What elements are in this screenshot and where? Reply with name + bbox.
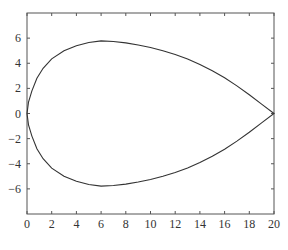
- x-tick-label: 16: [219, 217, 231, 231]
- y-tick-label: −6: [8, 182, 21, 196]
- y-tick-label: 2: [15, 81, 21, 95]
- y-tick-label: 4: [15, 56, 21, 70]
- axis-ticks: [27, 13, 274, 214]
- x-tick-label: 18: [243, 217, 255, 231]
- chart: 024681012141618206420−2−4−6: [0, 0, 288, 250]
- x-tick-label: 14: [194, 217, 206, 231]
- y-tick-label: 6: [15, 31, 21, 45]
- x-tick-label: 10: [145, 217, 157, 231]
- x-tick-label: 6: [98, 217, 104, 231]
- plot-frame: [27, 13, 274, 214]
- x-tick-label: 8: [123, 217, 129, 231]
- data-curve: [27, 41, 274, 186]
- y-tick-label: −2: [8, 132, 21, 146]
- x-tick-label: 2: [49, 217, 55, 231]
- x-tick-label: 12: [169, 217, 181, 231]
- x-tick-label: 0: [24, 217, 30, 231]
- x-tick-label: 4: [73, 217, 79, 231]
- y-tick-label: −4: [8, 157, 21, 171]
- y-tick-label: 0: [15, 107, 21, 121]
- x-tick-label: 20: [268, 217, 280, 231]
